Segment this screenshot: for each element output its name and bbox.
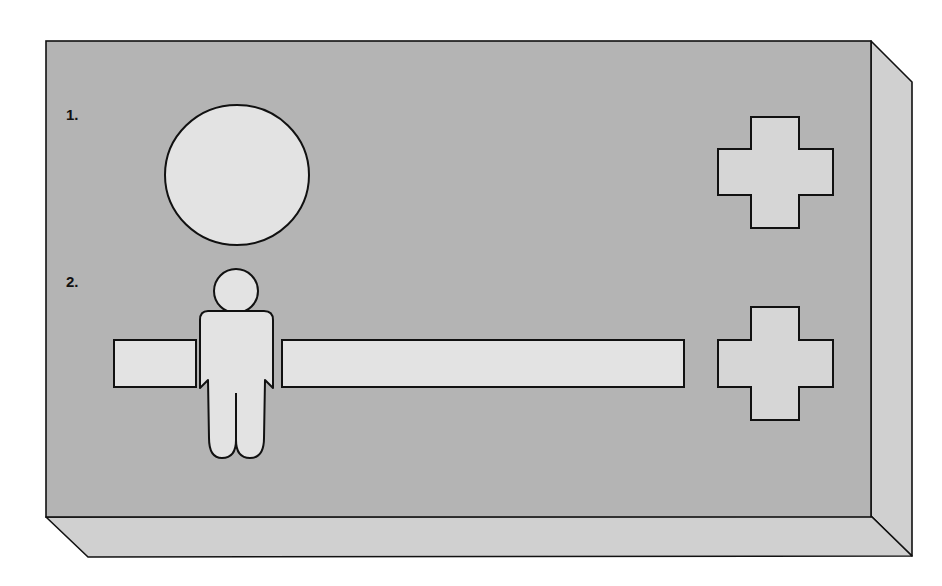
block-bottom-face: [46, 516, 912, 557]
short-rectangle: [114, 340, 196, 387]
circle-shape: [165, 105, 309, 245]
block-diagram: [0, 0, 942, 586]
long-rectangle: [282, 340, 684, 387]
person-head: [214, 269, 258, 313]
step-label-1: 1.: [66, 106, 79, 123]
step-label-2: 2.: [66, 273, 79, 290]
block-side-face: [871, 41, 912, 556]
block-front-face: [46, 41, 871, 517]
